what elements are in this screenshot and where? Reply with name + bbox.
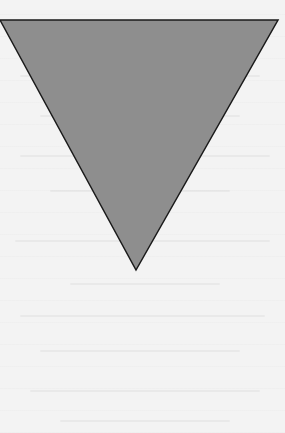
triangle-shape [0, 20, 278, 270]
inverted-triangle-diagram [0, 0, 285, 433]
